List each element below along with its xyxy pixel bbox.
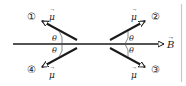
vector-4-marker: ④ [27,64,36,75]
angle-label-lower-right: θ [129,46,134,55]
vector-2-label: μ [131,12,137,22]
field-axis: B → [13,33,175,50]
vector-2: ② μ → [110,6,160,40]
magnetic-moment-diagram: B → ① μ → ④ μ → θ θ ② μ → ③ μ → θ [0,0,186,86]
vector-3-label: μ [131,70,137,80]
angle-label-upper-right: θ [129,34,134,43]
vector-3: ③ μ → [110,48,160,80]
vector-arrow-icon: → [132,6,138,12]
angle-label-lower-left: θ [52,46,57,55]
vector-1-label: μ [49,12,55,22]
vector-arrow-icon: → [50,64,56,70]
vector-4-label: μ [49,70,55,80]
vector-arrow-icon: → [50,6,56,12]
vector-1-marker: ① [27,11,36,22]
vector-arrow-icon: → [132,64,138,70]
angle-label-upper-left: θ [52,34,57,43]
vector-3-marker: ③ [151,64,160,75]
vector-arrow-icon: → [168,33,175,41]
vector-2-marker: ② [151,11,160,22]
